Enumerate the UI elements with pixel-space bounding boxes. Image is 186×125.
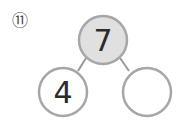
whole-value: 7 xyxy=(93,23,112,58)
part-left-value: 4 xyxy=(53,75,72,110)
part-circle-left: 4 xyxy=(39,68,87,116)
number-bond-diagram: 7 4 xyxy=(0,0,186,125)
part-circle-right[interactable] xyxy=(123,68,171,116)
connector-right xyxy=(120,58,129,71)
connector-left xyxy=(78,58,86,71)
whole-circle: 7 xyxy=(79,16,127,64)
